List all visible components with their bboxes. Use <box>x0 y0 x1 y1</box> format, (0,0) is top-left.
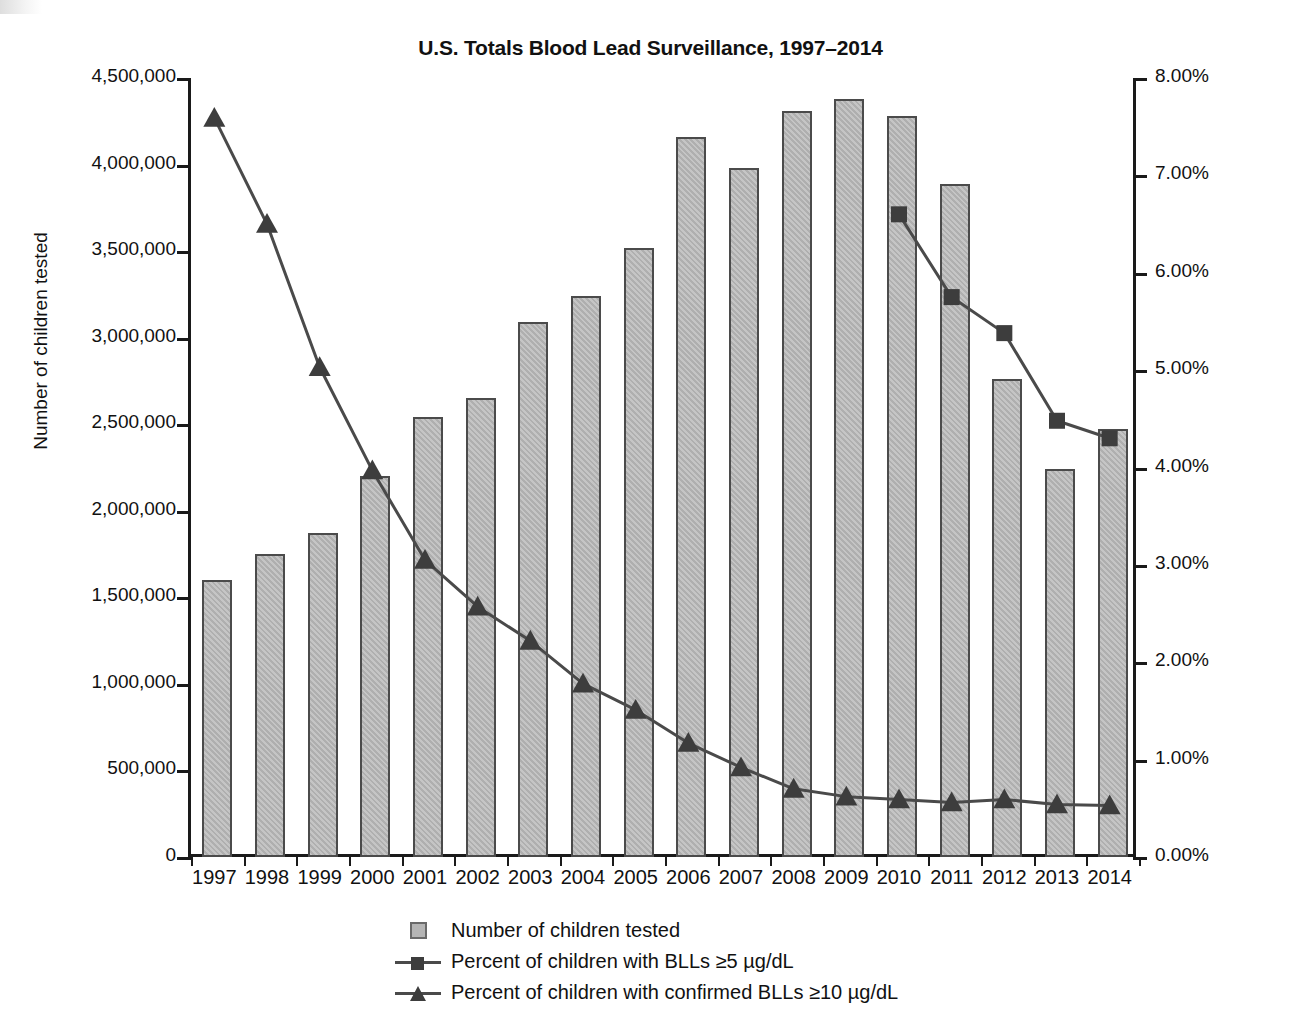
x-tick-label: 1998 <box>241 866 294 889</box>
bar <box>729 168 759 857</box>
x-tick-label: 1997 <box>188 866 241 889</box>
x-tick <box>612 857 614 866</box>
x-tick-label: 2006 <box>662 866 715 889</box>
y-tick-right <box>1133 175 1147 178</box>
y-tick-label-left: 3,000,000 <box>36 325 176 347</box>
bar <box>466 398 496 857</box>
y-tick-left <box>177 338 191 341</box>
x-tick <box>454 857 456 866</box>
x-tick-label: 2001 <box>399 866 452 889</box>
y-tick-label-right: 3.00% <box>1155 552 1275 574</box>
bar <box>360 476 390 857</box>
y-tick-label-left: 1,500,000 <box>36 584 176 606</box>
y-tick-left <box>177 424 191 427</box>
legend-label: Percent of children with BLLs ≥5 µg/dL <box>451 950 794 973</box>
y-tick-left <box>177 770 191 773</box>
legend-item-bll5: Percent of children with BLLs ≥5 µg/dL <box>395 946 898 977</box>
y-tick-right <box>1133 468 1147 471</box>
bar <box>1098 429 1128 857</box>
legend-label: Percent of children with confirmed BLLs … <box>451 981 898 1004</box>
legend-line-square-icon <box>395 954 441 970</box>
y-tick-left <box>177 165 191 168</box>
chart-figure: U.S. Totals Blood Lead Surveillance, 199… <box>0 0 1301 1013</box>
x-tick-label: 1999 <box>293 866 346 889</box>
y-tick-left <box>177 78 191 81</box>
y-tick-label-right: 6.00% <box>1155 260 1275 282</box>
bar <box>940 184 970 857</box>
legend-item-bll10: Percent of children with confirmed BLLs … <box>395 977 898 1008</box>
y-tick-label-right: 7.00% <box>1155 162 1275 184</box>
y-tick-label-left: 1,000,000 <box>36 671 176 693</box>
y-tick-left <box>177 251 191 254</box>
y-tick-label-right: 0.00% <box>1155 844 1275 866</box>
x-tick-label: 2008 <box>767 866 820 889</box>
y-tick-label-left: 500,000 <box>36 757 176 779</box>
x-tick <box>665 857 667 866</box>
x-tick <box>981 857 983 866</box>
x-tick <box>296 857 298 866</box>
x-tick-label: 2005 <box>609 866 662 889</box>
y-tick-label-right: 1.00% <box>1155 747 1275 769</box>
y-tick-label-left: 2,500,000 <box>36 411 176 433</box>
x-tick <box>770 857 772 866</box>
x-tick <box>560 857 562 866</box>
bar <box>782 111 812 857</box>
x-tick <box>928 857 930 866</box>
bar <box>255 554 285 857</box>
x-tick-label: 2013 <box>1031 866 1084 889</box>
y-tick-label-left: 3,500,000 <box>36 238 176 260</box>
bar <box>834 99 864 857</box>
bar <box>413 417 443 857</box>
bar <box>676 137 706 857</box>
y-tick-label-right: 2.00% <box>1155 649 1275 671</box>
y-tick-right <box>1133 565 1147 568</box>
bar <box>887 116 917 857</box>
x-tick <box>718 857 720 866</box>
y-tick-left <box>177 684 191 687</box>
y-tick-left <box>177 857 191 860</box>
plot-area <box>188 78 1136 857</box>
x-tick <box>876 857 878 866</box>
y-tick-label-left: 2,000,000 <box>36 498 176 520</box>
y-tick-label-left: 4,500,000 <box>36 65 176 87</box>
x-tick-label: 2012 <box>978 866 1031 889</box>
x-tick <box>1034 857 1036 866</box>
x-tick <box>191 857 193 866</box>
legend-item-bars: Number of children tested <box>395 915 898 946</box>
y-tick-label-right: 4.00% <box>1155 455 1275 477</box>
x-tick-label: 2010 <box>873 866 926 889</box>
y-tick-left <box>177 511 191 514</box>
bar <box>1045 469 1075 857</box>
x-tick <box>823 857 825 866</box>
x-tick <box>349 857 351 866</box>
y-tick-left <box>177 597 191 600</box>
x-tick-label: 2009 <box>820 866 873 889</box>
y-tick-label-right: 8.00% <box>1155 65 1275 87</box>
chart-legend: Number of children tested Percent of chi… <box>395 915 898 1008</box>
legend-line-triangle-icon <box>395 985 441 1001</box>
x-tick-label: 2003 <box>504 866 557 889</box>
x-tick-label: 2007 <box>715 866 768 889</box>
x-tick-label: 2002 <box>451 866 504 889</box>
bar <box>571 296 601 857</box>
x-tick-label: 2014 <box>1083 866 1136 889</box>
bar <box>518 322 548 857</box>
x-tick-label: 2000 <box>346 866 399 889</box>
y-tick-right <box>1133 662 1147 665</box>
x-tick-label: 2004 <box>557 866 610 889</box>
legend-swatch-icon <box>395 922 441 939</box>
x-tick <box>1086 857 1088 866</box>
chart-title: U.S. Totals Blood Lead Surveillance, 199… <box>0 36 1301 60</box>
x-tick <box>244 857 246 866</box>
bar <box>992 379 1022 857</box>
y-tick-right <box>1133 370 1147 373</box>
y-tick-right <box>1133 273 1147 276</box>
x-tick-label: 2011 <box>925 866 978 889</box>
bar <box>202 580 232 857</box>
x-tick <box>402 857 404 866</box>
y-tick-right <box>1133 78 1147 81</box>
y-tick-label-left: 4,000,000 <box>36 152 176 174</box>
legend-label: Number of children tested <box>451 919 680 942</box>
x-tick <box>507 857 509 866</box>
x-tick <box>1139 857 1141 866</box>
